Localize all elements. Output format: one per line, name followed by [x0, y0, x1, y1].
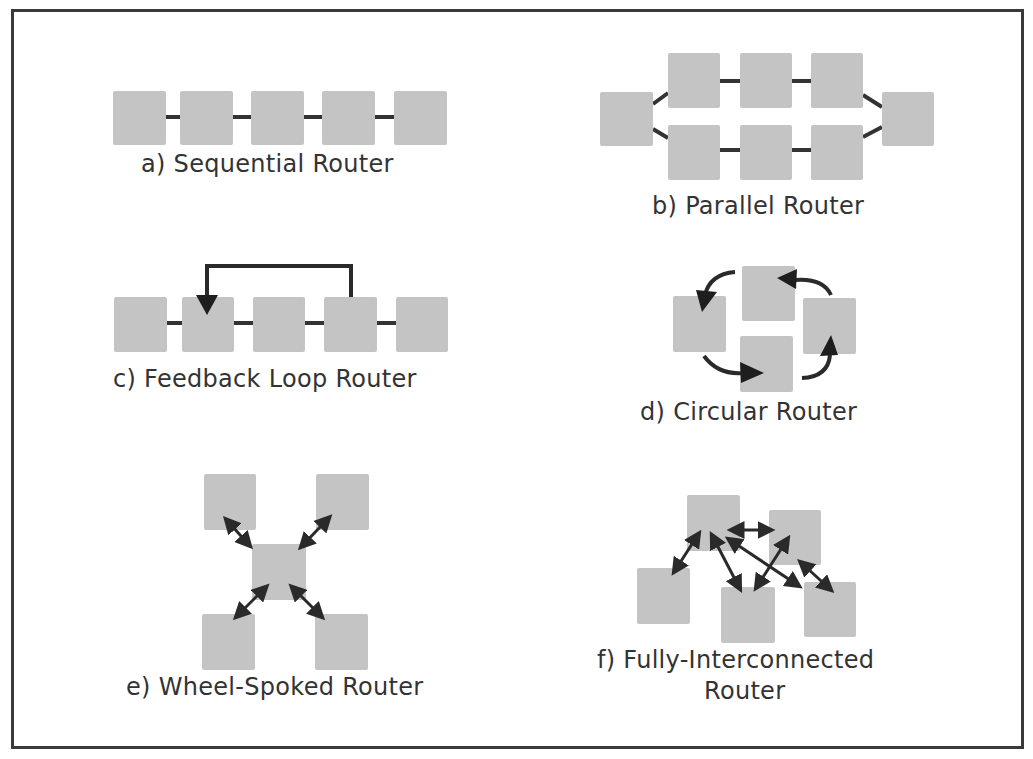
panel-f-caption-line1: f) Fully-Interconnected: [597, 646, 874, 674]
feedback-arrow: [207, 266, 351, 300]
router-node: [673, 296, 726, 352]
router-node: [668, 125, 720, 180]
panel-a-caption: a) Sequential Router: [141, 150, 394, 178]
router-node: [721, 587, 775, 643]
router-node: [740, 125, 792, 180]
router-node: [740, 53, 792, 108]
router-node: [114, 297, 167, 352]
panel-d-circular-diagram: [673, 266, 856, 392]
router-node: [202, 614, 255, 670]
panel-d-caption: d) Circular Router: [640, 398, 857, 426]
router-node: [324, 297, 377, 352]
router-node: [315, 614, 368, 670]
router-node: [316, 474, 369, 530]
router-node: [394, 91, 447, 145]
router-node: [113, 91, 166, 145]
panel-e-caption: e) Wheel-Spoked Router: [126, 673, 424, 701]
panel-e-wheel-spoked-diagram: [202, 474, 369, 670]
router-hub-node: [252, 544, 306, 600]
router-node: [180, 91, 233, 145]
router-node: [811, 125, 863, 180]
router-node: [204, 474, 256, 530]
router-node: [687, 495, 740, 551]
router-node: [637, 568, 690, 624]
panel-b-caption: b) Parallel Router: [652, 192, 864, 220]
router-node: [740, 336, 793, 392]
router-node: [811, 53, 863, 108]
panel-c-caption: c) Feedback Loop Router: [113, 365, 417, 393]
router-node: [251, 91, 304, 145]
router-node: [600, 92, 653, 146]
router-node: [253, 297, 305, 352]
panel-c-feedback-loop-diagram: [114, 266, 448, 352]
panel-a-sequential-diagram: [113, 91, 447, 145]
panel-f-caption-line2: Router: [704, 677, 785, 705]
panel-f-fully-interconnected-diagram: [637, 495, 856, 643]
router-node: [322, 91, 375, 145]
panel-b-parallel-diagram: [600, 53, 934, 180]
router-node: [882, 92, 934, 146]
router-node: [668, 53, 720, 108]
router-node: [396, 297, 448, 352]
